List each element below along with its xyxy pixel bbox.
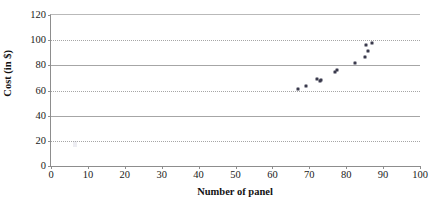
plot-area: 0204060801001200102030405060708090100: [50, 14, 420, 167]
y-tick-label-120: 120: [30, 10, 46, 21]
data-point: [367, 49, 370, 52]
x-tick-label-100: 100: [412, 170, 428, 181]
x-tick-mark-0: [51, 166, 52, 169]
x-tick-label-20: 20: [120, 170, 131, 181]
gridline-y-80: [51, 65, 420, 66]
x-tick-label-10: 10: [83, 170, 94, 181]
y-tick-label-60: 60: [36, 85, 47, 96]
x-tick-label-30: 30: [156, 170, 167, 181]
x-tick-mark-10: [88, 166, 89, 169]
y-tick-mark-100: [48, 40, 51, 41]
gridline-y-100: [51, 40, 420, 41]
y-tick-label-80: 80: [36, 60, 47, 71]
y-axis-title: Cost (in $): [2, 50, 16, 97]
x-tick-mark-60: [272, 166, 273, 169]
y-tick-mark-120: [48, 15, 51, 16]
x-tick-mark-80: [346, 166, 347, 169]
x-tick-mark-100: [420, 166, 421, 169]
y-tick-label-20: 20: [36, 136, 47, 147]
x-tick-mark-50: [236, 166, 237, 169]
data-point: [304, 85, 307, 88]
data-point: [353, 62, 356, 65]
x-tick-label-80: 80: [341, 170, 352, 181]
x-tick-label-40: 40: [193, 170, 204, 181]
x-tick-mark-70: [309, 166, 310, 169]
x-tick-mark-40: [199, 166, 200, 169]
data-point: [371, 41, 374, 44]
x-tick-mark-20: [125, 166, 126, 169]
scatter-chart-figure: Cost (in $) 0204060801001200102030405060…: [0, 0, 437, 205]
x-tick-mark-30: [162, 166, 163, 169]
y-tick-label-0: 0: [41, 161, 46, 172]
x-axis-title: Number of panel: [50, 186, 420, 197]
y-tick-mark-40: [48, 116, 51, 117]
data-point: [297, 87, 300, 90]
y-tick-mark-20: [48, 141, 51, 142]
x-tick-mark-90: [383, 166, 384, 169]
gridline-y-60: [51, 91, 420, 92]
data-point: [320, 78, 323, 81]
x-tick-label-0: 0: [48, 170, 53, 181]
scan-artifact: [73, 141, 77, 147]
y-tick-mark-60: [48, 91, 51, 92]
y-tick-label-100: 100: [30, 35, 46, 46]
gridline-y-20: [51, 141, 420, 142]
x-tick-label-60: 60: [267, 170, 278, 181]
x-tick-label-50: 50: [230, 170, 241, 181]
data-point: [363, 56, 366, 59]
y-tick-mark-80: [48, 65, 51, 66]
data-point: [364, 44, 367, 47]
x-tick-label-90: 90: [378, 170, 389, 181]
y-tick-label-40: 40: [36, 110, 47, 121]
gridline-y-40: [51, 116, 420, 117]
x-tick-label-70: 70: [304, 170, 315, 181]
data-point: [336, 69, 339, 72]
